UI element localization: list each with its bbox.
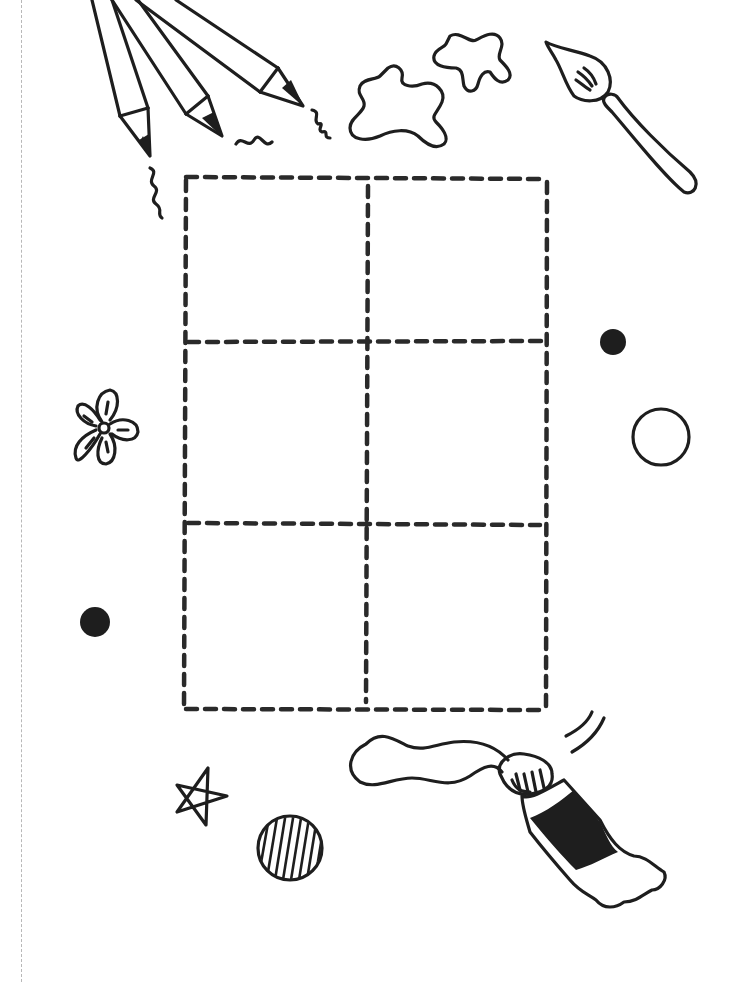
panel-6 bbox=[372, 528, 542, 706]
star-icon bbox=[177, 768, 227, 825]
filled-dot-icon bbox=[600, 329, 626, 355]
squiggle-icon bbox=[236, 137, 272, 144]
paint-splat-icon bbox=[350, 66, 446, 147]
squiggle-icon bbox=[150, 168, 162, 218]
filled-dot-icon bbox=[80, 607, 110, 637]
grid-border-left bbox=[184, 180, 186, 708]
panel-grid bbox=[184, 177, 547, 710]
panel-1 bbox=[190, 182, 364, 338]
striped-ball-icon bbox=[258, 812, 326, 886]
squiggle-icon bbox=[312, 110, 330, 138]
grid-divider-row1 bbox=[188, 341, 542, 342]
flower-icon bbox=[75, 390, 138, 464]
pencil-icon bbox=[92, 0, 150, 157]
paintbrush-icon bbox=[546, 42, 696, 193]
panel-3 bbox=[190, 346, 364, 520]
pencils-icon bbox=[92, 0, 304, 157]
hollow-circle-icon bbox=[633, 409, 689, 465]
panel-4 bbox=[372, 346, 542, 520]
grid-divider-vertical bbox=[366, 186, 368, 702]
panel-2 bbox=[372, 182, 542, 338]
pencil-icon bbox=[136, 0, 304, 107]
panel-5 bbox=[190, 528, 364, 706]
grid-border-top bbox=[186, 177, 546, 179]
grid-border-bottom bbox=[186, 709, 544, 710]
grid-border-right bbox=[546, 182, 547, 708]
paint-tube-icon bbox=[351, 712, 665, 907]
coloring-page: Art supplies comic-panel template bbox=[0, 0, 733, 982]
grid-divider-row2 bbox=[188, 523, 540, 525]
paint-splat-icon bbox=[434, 34, 510, 91]
